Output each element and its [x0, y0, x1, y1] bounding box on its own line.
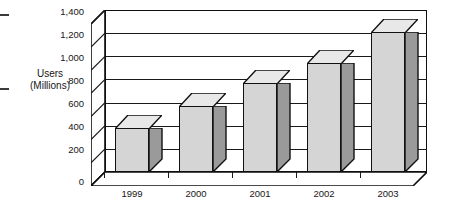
- bar-2002-top-face: [307, 50, 354, 64]
- x-axis-separator-3: [232, 172, 233, 178]
- page-edge-mark-top: [0, 14, 9, 16]
- y-tick-label-200: 200: [40, 145, 84, 155]
- y-tick-label-800: 800: [40, 76, 84, 86]
- x-tick-label-2000: 2000: [168, 189, 224, 199]
- bar-2001-front-face: [243, 83, 277, 172]
- y-tick-label-600: 600: [40, 99, 84, 109]
- bar-2000-front-face: [179, 106, 213, 172]
- x-tick-label-2002: 2002: [296, 189, 352, 199]
- bar-1999-top-face: [115, 115, 162, 129]
- bar-2001-side-face: [277, 83, 290, 172]
- bar-2003-side-face: [405, 32, 418, 172]
- bar-2001-top-face: [243, 70, 290, 84]
- bar-2001: [243, 83, 277, 172]
- bar-2003-top-face: [371, 19, 418, 33]
- x-tick-label-1999: 1999: [104, 189, 160, 199]
- plot-area: [91, 10, 427, 186]
- y-tick-label-1000: 1,000: [40, 53, 84, 63]
- y-tick-label-400: 400: [40, 122, 84, 132]
- bar-chart: Users (Millions) 1,400 1,200 1,000 800 6…: [0, 0, 456, 218]
- bar-1999-side-face: [149, 128, 162, 172]
- x-axis-separator-5: [360, 172, 361, 178]
- bar-2003-front-face: [371, 32, 405, 172]
- bar-1999-front-face: [115, 128, 149, 172]
- y-tick-label-1200: 1,200: [40, 30, 84, 40]
- x-tick-label-2003: 2003: [360, 189, 416, 199]
- x-axis-separator-2: [168, 172, 169, 178]
- bar-2000-top-face: [179, 93, 226, 107]
- x-tick-label-2001: 2001: [232, 189, 288, 199]
- x-axis-separator-1: [104, 172, 105, 178]
- bar-1999: [115, 128, 149, 172]
- page-edge-mark-middle: [0, 88, 9, 90]
- bar-2000-side-face: [213, 106, 226, 172]
- bar-2003: [371, 32, 405, 172]
- bar-2002: [307, 63, 341, 172]
- y-tick-label-1400: 1,400: [40, 7, 84, 17]
- bar-2000: [179, 106, 213, 172]
- bar-2002-side-face: [341, 63, 354, 172]
- bar-2002-front-face: [307, 63, 341, 172]
- x-axis-separator-4: [296, 172, 297, 178]
- y-tick-label-0: 0: [40, 177, 84, 187]
